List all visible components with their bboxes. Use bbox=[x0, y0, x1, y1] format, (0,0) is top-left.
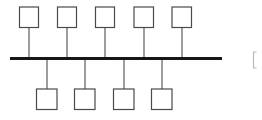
top-nodes-group bbox=[20, 7, 192, 28]
bottom-stems-group bbox=[47, 60, 162, 89]
edge-marks-group bbox=[254, 52, 257, 68]
top-node-4[interactable] bbox=[134, 7, 154, 28]
top-node-1[interactable] bbox=[20, 7, 39, 28]
top-node-5[interactable] bbox=[172, 7, 192, 28]
bottom-node-3[interactable] bbox=[114, 89, 135, 110]
bottom-node-4[interactable] bbox=[152, 89, 173, 110]
diagram-canvas bbox=[0, 0, 262, 120]
bottom-node-2[interactable] bbox=[75, 89, 96, 110]
top-node-3[interactable] bbox=[96, 7, 115, 28]
bottom-node-1[interactable] bbox=[37, 89, 58, 110]
diagram-svg bbox=[0, 0, 262, 120]
bottom-nodes-group bbox=[37, 89, 173, 110]
top-node-2[interactable] bbox=[58, 7, 77, 28]
right-bracket-mark bbox=[254, 52, 257, 68]
top-stems-group bbox=[29, 28, 182, 58]
